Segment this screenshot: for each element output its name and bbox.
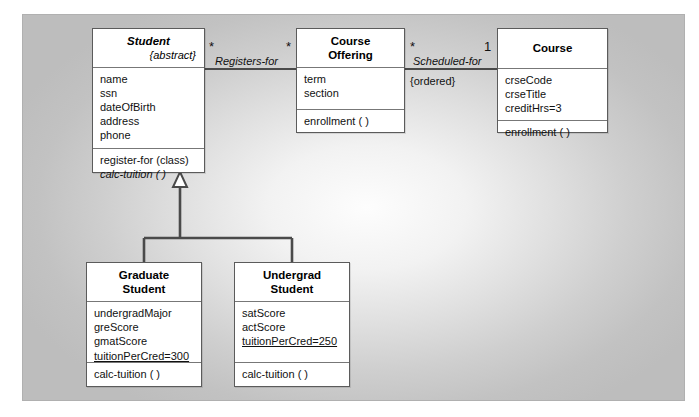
class-name-text: Course bbox=[533, 42, 573, 54]
attribute: phone bbox=[100, 128, 197, 142]
class-name-text-line1: Graduate bbox=[119, 269, 170, 281]
multiplicity-registers-for-target: * bbox=[286, 42, 291, 51]
class-name-course-offering: Course Offering bbox=[297, 29, 404, 67]
attribute-static: tuitionPerCred=300 bbox=[94, 349, 194, 363]
operation: enrollment ( ) bbox=[304, 114, 397, 128]
multiplicity-scheduled-for-source: * bbox=[410, 42, 415, 51]
class-name-student: Student {abstract} bbox=[93, 29, 204, 67]
class-name-text: Student bbox=[127, 35, 170, 47]
attribute: greScore bbox=[94, 320, 194, 334]
attribute: creditHrs=3 bbox=[505, 101, 600, 115]
attribute: dateOfBirth bbox=[100, 100, 197, 114]
association-label-registers-for: Registers-for bbox=[215, 55, 278, 67]
class-name-course: Course bbox=[498, 29, 607, 68]
multiplicity-scheduled-for-target: 1 bbox=[484, 42, 491, 51]
operations-compartment-graduate-student: calc-tuition ( ) bbox=[87, 362, 201, 386]
attributes-compartment-course-offering: term section bbox=[297, 67, 404, 109]
attribute: address bbox=[100, 114, 197, 128]
class-box-student[interactable]: Student {abstract} name ssn dateOfBirth … bbox=[92, 28, 205, 173]
attribute: satScore bbox=[242, 306, 342, 320]
attribute: name bbox=[100, 72, 197, 86]
attribute: section bbox=[304, 86, 397, 100]
attributes-compartment-graduate-student: undergradMajor greScore gmatScore tuitio… bbox=[87, 301, 201, 362]
class-box-graduate-student[interactable]: Graduate Student undergradMajor greScore… bbox=[86, 262, 202, 387]
association-label-scheduled-for: Scheduled-for bbox=[413, 55, 482, 67]
class-name-text-line2: Student bbox=[123, 283, 166, 295]
class-box-course[interactable]: Course crseCode crseTitle creditHrs=3 en… bbox=[497, 28, 608, 133]
class-name-graduate-student: Graduate Student bbox=[87, 263, 201, 301]
attribute: undergradMajor bbox=[94, 306, 194, 320]
operation: register-for (class) bbox=[100, 153, 197, 167]
operation: calc-tuition ( ) bbox=[100, 167, 197, 181]
operations-compartment-undergrad-student: calc-tuition ( ) bbox=[235, 362, 349, 386]
operation: calc-tuition ( ) bbox=[242, 367, 342, 381]
operation: calc-tuition ( ) bbox=[94, 367, 194, 381]
attribute: ssn bbox=[100, 86, 197, 100]
class-name-undergrad-student: Undergrad Student bbox=[235, 263, 349, 301]
attribute: term bbox=[304, 72, 397, 86]
operations-compartment-student: register-for (class) calc-tuition ( ) bbox=[93, 148, 204, 186]
attributes-compartment-course: crseCode crseTitle creditHrs=3 bbox=[498, 68, 607, 121]
operation: enrollment ( ) bbox=[505, 125, 600, 139]
abstract-stereotype: {abstract} bbox=[100, 49, 197, 62]
class-box-undergrad-student[interactable]: Undergrad Student satScore actScore tuit… bbox=[234, 262, 350, 387]
operations-compartment-course-offering: enrollment ( ) bbox=[297, 109, 404, 133]
class-name-text-line2: Offering bbox=[328, 49, 373, 61]
attribute-static: tuitionPerCred=250 bbox=[242, 334, 342, 348]
attribute: gmatScore bbox=[94, 334, 194, 348]
attribute: crseTitle bbox=[505, 87, 600, 101]
association-constraint-ordered: {ordered} bbox=[410, 75, 455, 87]
class-name-text-line1: Undergrad bbox=[263, 269, 321, 281]
attributes-compartment-undergrad-student: satScore actScore tuitionPerCred=250 bbox=[235, 301, 349, 362]
diagram-stage: Student {abstract} name ssn dateOfBirth … bbox=[0, 0, 699, 417]
class-name-text-line2: Student bbox=[271, 283, 314, 295]
attribute: actScore bbox=[242, 320, 342, 334]
multiplicity-registers-for-source: * bbox=[209, 42, 214, 51]
class-name-text-line1: Course bbox=[331, 35, 371, 47]
operations-compartment-course: enrollment ( ) bbox=[498, 120, 607, 144]
attributes-compartment-student: name ssn dateOfBirth address phone bbox=[93, 67, 204, 148]
attribute: crseCode bbox=[505, 73, 600, 87]
class-box-course-offering[interactable]: Course Offering term section enrollment … bbox=[296, 28, 405, 133]
